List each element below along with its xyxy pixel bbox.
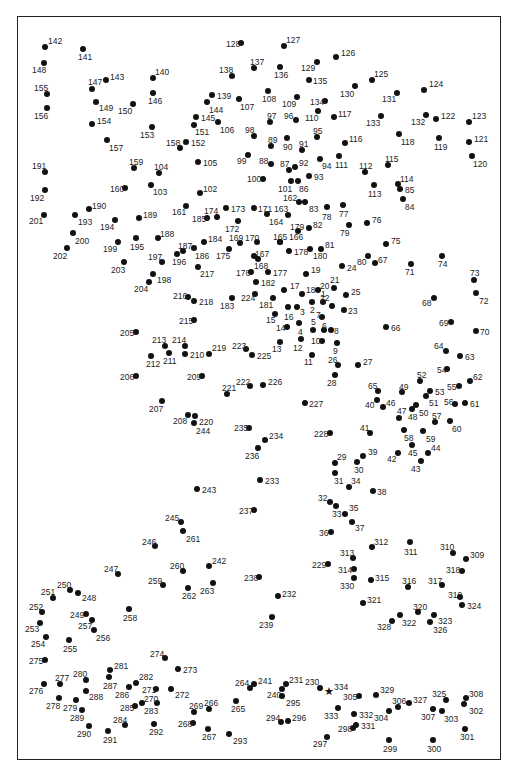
puzzle-dot[interactable] <box>368 577 374 583</box>
puzzle-dot[interactable] <box>66 637 72 643</box>
puzzle-dot[interactable] <box>195 159 201 165</box>
puzzle-dot[interactable] <box>302 199 308 205</box>
puzzle-dot[interactable] <box>253 279 259 285</box>
puzzle-dot[interactable] <box>133 235 139 241</box>
puzzle-dot[interactable] <box>298 336 304 342</box>
puzzle-dot[interactable] <box>150 271 156 277</box>
puzzle-dot[interactable] <box>331 285 337 291</box>
puzzle-dot[interactable] <box>262 437 268 443</box>
puzzle-dot[interactable] <box>331 114 337 120</box>
puzzle-dot[interactable] <box>360 453 366 459</box>
puzzle-dot[interactable] <box>421 87 427 93</box>
puzzle-dot[interactable] <box>251 205 257 211</box>
puzzle-dot[interactable] <box>430 737 436 743</box>
puzzle-dot[interactable] <box>182 351 188 357</box>
puzzle-dot[interactable] <box>427 388 433 394</box>
puzzle-dot[interactable] <box>285 304 291 310</box>
puzzle-dot[interactable] <box>191 298 197 304</box>
puzzle-dot[interactable] <box>201 239 207 245</box>
puzzle-dot[interactable] <box>327 499 333 505</box>
puzzle-dot[interactable] <box>106 674 112 680</box>
puzzle-dot[interactable] <box>448 319 454 325</box>
puzzle-dot[interactable] <box>339 263 345 269</box>
puzzle-dot[interactable] <box>281 287 287 293</box>
puzzle-dot[interactable] <box>175 666 181 672</box>
puzzle-dot[interactable] <box>431 295 437 301</box>
puzzle-dot[interactable] <box>342 140 348 146</box>
puzzle-dot[interactable] <box>383 241 389 247</box>
puzzle-dot[interactable] <box>193 114 199 120</box>
puzzle-dot[interactable] <box>386 737 392 743</box>
puzzle-dot[interactable] <box>268 161 274 167</box>
puzzle-dot[interactable] <box>407 539 413 545</box>
puzzle-dot[interactable] <box>277 239 283 245</box>
puzzle-dot[interactable] <box>303 271 309 277</box>
puzzle-dot[interactable] <box>360 600 366 606</box>
puzzle-dot[interactable] <box>75 590 81 596</box>
puzzle-dot[interactable] <box>473 328 479 334</box>
puzzle-dot[interactable] <box>275 593 281 599</box>
puzzle-dot[interactable] <box>336 153 342 159</box>
puzzle-dot[interactable] <box>433 116 439 122</box>
puzzle-dot[interactable] <box>265 269 271 275</box>
puzzle-dot[interactable] <box>226 731 232 737</box>
puzzle-dot[interactable] <box>431 612 437 618</box>
puzzle-dot[interactable] <box>103 77 109 83</box>
puzzle-dot[interactable] <box>351 711 357 717</box>
puzzle-dot[interactable] <box>183 139 189 145</box>
puzzle-dot[interactable] <box>89 121 95 127</box>
puzzle-dot[interactable] <box>192 413 198 419</box>
puzzle-dot[interactable] <box>105 728 111 734</box>
puzzle-dot[interactable] <box>370 488 376 494</box>
puzzle-dot[interactable] <box>296 320 302 326</box>
puzzle-dot[interactable] <box>306 225 312 231</box>
puzzle-dot[interactable] <box>456 383 462 389</box>
puzzle-dot[interactable] <box>306 173 312 179</box>
puzzle-dot[interactable] <box>371 182 377 188</box>
puzzle-dot[interactable] <box>343 292 349 298</box>
start-star-icon[interactable]: ★ <box>324 686 334 697</box>
puzzle-dot[interactable] <box>260 382 266 388</box>
puzzle-dot[interactable] <box>333 54 339 60</box>
puzzle-dot[interactable] <box>249 352 255 358</box>
puzzle-dot[interactable] <box>286 248 292 254</box>
puzzle-dot[interactable] <box>340 202 346 208</box>
puzzle-dot[interactable] <box>374 397 380 403</box>
puzzle-dot[interactable] <box>466 139 472 145</box>
puzzle-dot[interactable] <box>341 307 347 313</box>
puzzle-dot[interactable] <box>328 529 334 535</box>
puzzle-dot[interactable] <box>292 164 298 170</box>
puzzle-dot[interactable] <box>459 602 465 608</box>
puzzle-dot[interactable] <box>457 353 463 359</box>
puzzle-dot[interactable] <box>462 400 468 406</box>
puzzle-dot[interactable] <box>107 667 113 673</box>
puzzle-dot[interactable] <box>168 686 174 692</box>
puzzle-dot[interactable] <box>342 511 348 517</box>
puzzle-dot[interactable] <box>353 722 359 728</box>
puzzle-dot[interactable] <box>279 693 285 699</box>
puzzle-dot[interactable] <box>223 205 229 211</box>
puzzle-dot[interactable] <box>299 291 305 297</box>
puzzle-dot[interactable] <box>306 77 312 83</box>
puzzle-dot[interactable] <box>302 400 308 406</box>
puzzle-dot[interactable] <box>443 348 449 354</box>
puzzle-dot[interactable] <box>136 215 142 221</box>
puzzle-dot[interactable] <box>293 117 299 123</box>
puzzle-dot[interactable] <box>436 135 442 141</box>
puzzle-dot[interactable] <box>285 718 291 724</box>
puzzle-dot[interactable] <box>126 606 132 612</box>
puzzle-dot[interactable] <box>209 92 215 98</box>
puzzle-dot[interactable] <box>364 220 370 226</box>
puzzle-dot[interactable] <box>355 362 361 368</box>
puzzle-dot[interactable] <box>310 327 316 333</box>
puzzle-dot[interactable] <box>383 324 389 330</box>
puzzle-dot[interactable] <box>194 486 200 492</box>
puzzle-dot[interactable] <box>324 204 330 210</box>
puzzle-dot[interactable] <box>329 303 335 309</box>
puzzle-dot[interactable] <box>463 556 469 562</box>
puzzle-dot[interactable] <box>257 477 263 483</box>
puzzle-dot[interactable] <box>406 700 412 706</box>
puzzle-dot[interactable] <box>461 701 467 707</box>
puzzle-dot[interactable] <box>373 692 379 698</box>
puzzle-dot[interactable] <box>284 135 290 141</box>
